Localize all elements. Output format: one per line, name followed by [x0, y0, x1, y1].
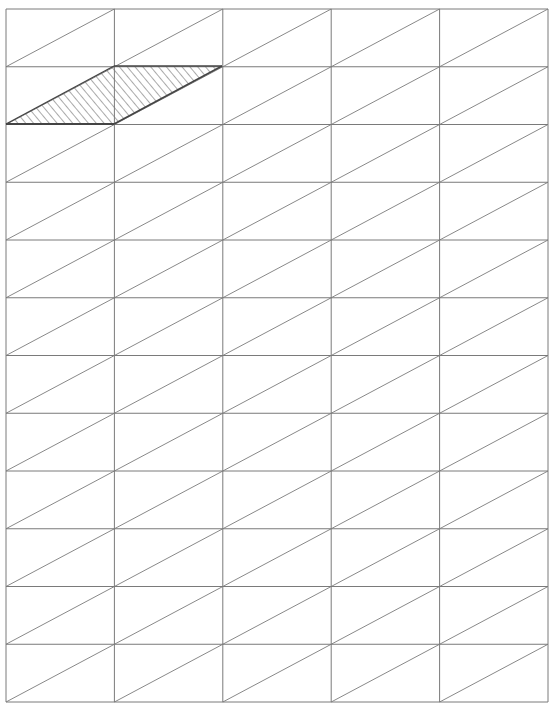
cell-diagonal — [6, 356, 114, 414]
cell-diagonal — [440, 471, 548, 529]
cell-diagonal — [114, 125, 222, 183]
cell-diagonal — [331, 529, 439, 587]
cell-diagonal — [331, 182, 439, 240]
cell-diagonal — [114, 471, 222, 529]
cell-diagonal — [440, 529, 548, 587]
cell-diagonal — [6, 240, 114, 298]
cell-diagonal — [440, 298, 548, 356]
cell-diagonal — [331, 471, 439, 529]
cell-diagonal — [223, 298, 331, 356]
cell-diagonal — [6, 298, 114, 356]
cell-diagonal — [331, 67, 439, 125]
cell-diagonal — [6, 529, 114, 587]
cell-diagonal — [6, 182, 114, 240]
cell-diagonal — [114, 356, 222, 414]
cell-diagonal — [223, 182, 331, 240]
cell-diagonal — [331, 356, 439, 414]
cell-diagonal — [331, 9, 439, 67]
cell-diagonal — [331, 644, 439, 702]
cell-diagonal — [114, 9, 222, 67]
cell-diagonal — [114, 298, 222, 356]
cell-diagonal — [223, 125, 331, 183]
cell-diagonal — [440, 356, 548, 414]
cell-diagonal — [223, 240, 331, 298]
triangulated-grid-diagram — [0, 0, 550, 707]
cell-diagonal — [114, 644, 222, 702]
cell-diagonal — [223, 413, 331, 471]
cell-diagonal — [223, 9, 331, 67]
cell-diagonal — [440, 587, 548, 645]
cell-diagonal — [440, 9, 548, 67]
cell-diagonal — [223, 471, 331, 529]
cell-diagonal — [331, 125, 439, 183]
cell-diagonal — [223, 356, 331, 414]
cell-diagonal — [114, 182, 222, 240]
cell-diagonal — [331, 587, 439, 645]
cell-diagonal — [114, 413, 222, 471]
cell-diagonal — [331, 298, 439, 356]
cell-diagonal — [6, 9, 114, 67]
cell-diagonal — [331, 413, 439, 471]
cell-diagonal — [6, 413, 114, 471]
cell-diagonal — [114, 240, 222, 298]
cell-diagonal — [6, 587, 114, 645]
cell-diagonal — [440, 413, 548, 471]
cell-diagonal — [440, 67, 548, 125]
cell-diagonal — [6, 644, 114, 702]
cell-diagonal — [440, 644, 548, 702]
cell-diagonal — [223, 587, 331, 645]
cell-diagonal — [114, 587, 222, 645]
cell-diagonal — [114, 529, 222, 587]
cell-diagonal — [223, 529, 331, 587]
cell-diagonal — [6, 471, 114, 529]
cell-diagonal — [223, 644, 331, 702]
cell-diagonal — [6, 125, 114, 183]
cell-diagonal — [440, 240, 548, 298]
cell-diagonal — [223, 67, 331, 125]
cell-diagonal — [440, 182, 548, 240]
cell-diagonal — [440, 125, 548, 183]
cell-diagonal — [331, 240, 439, 298]
